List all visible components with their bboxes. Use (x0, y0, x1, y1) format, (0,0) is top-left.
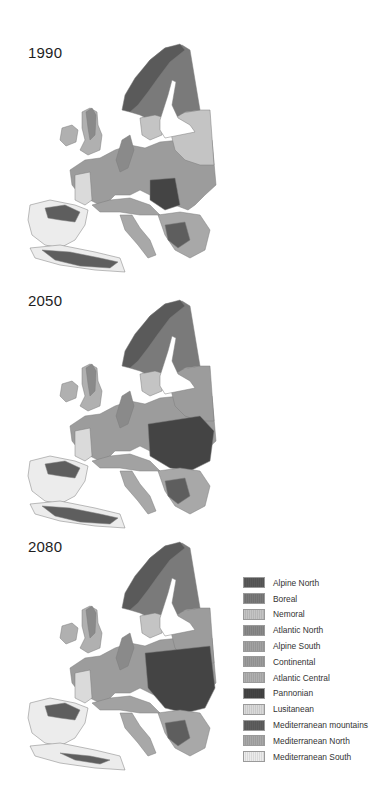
zone-pannonian (148, 416, 214, 471)
zone-ireland (60, 125, 78, 146)
legend-label: Atlantic Central (273, 673, 330, 683)
legend-swatch-mediterranean-north (243, 735, 265, 746)
europe-map-2080 (0, 528, 230, 794)
legend-swatch-atlantic-north (243, 625, 265, 636)
map-panel-2080: 2080 (0, 528, 230, 794)
legend-swatch-nemoral (243, 609, 265, 620)
europe-map-2050 (0, 268, 230, 538)
zone-lusitanean-fr (75, 172, 92, 205)
legend-item: Mediterranean South (243, 749, 377, 765)
legend-swatch-mediterranean-south (243, 751, 265, 762)
zone-pannonian (150, 178, 180, 210)
map-panel-2050: 2050 (0, 268, 230, 538)
legend-item: Lusitanean (243, 701, 377, 717)
legend-swatch-pannonian (243, 688, 265, 699)
legend-label: Lusitanean (273, 704, 314, 714)
zone-ireland (60, 623, 78, 644)
legend-label: Continental (273, 657, 315, 667)
legend-item: Mediterranean North (243, 733, 377, 749)
legend-label: Alpine South (273, 641, 321, 651)
legend-label: Mediterranean mountains (273, 720, 368, 730)
legend-item: Boreal (243, 591, 377, 607)
legend-swatch-lusitanean (243, 704, 265, 715)
legend-item: Atlantic North (243, 622, 377, 638)
zone-italy (120, 713, 156, 756)
zone-italy (120, 215, 156, 258)
zone-lusitanean-fr (75, 428, 92, 461)
legend: Alpine North Boreal Nemoral Atlantic Nor… (243, 575, 377, 765)
legend-swatch-continental (243, 656, 265, 667)
zone-pannonian (145, 646, 215, 713)
legend-item: Pannonian (243, 686, 377, 702)
europe-map-1990 (0, 0, 230, 280)
legend-label: Pannonian (273, 688, 313, 698)
zone-lusitanean-fr (75, 670, 92, 703)
zone-ireland (60, 381, 78, 402)
legend-swatch-atlantic-central (243, 672, 265, 683)
legend-label: Atlantic North (273, 625, 323, 635)
legend-item: Nemoral (243, 607, 377, 623)
legend-swatch-mediterranean-mountains (243, 720, 265, 731)
legend-swatch-boreal (243, 593, 265, 604)
legend-item: Continental (243, 654, 377, 670)
legend-item: Atlantic Central (243, 670, 377, 686)
legend-label: Boreal (273, 594, 297, 604)
legend-swatch-alpine-north (243, 577, 265, 588)
legend-swatch-alpine-south (243, 641, 265, 652)
legend-item: Mediterranean mountains (243, 717, 377, 733)
zone-italy (120, 471, 156, 514)
legend-label: Mediterranean South (273, 752, 351, 762)
legend-item: Alpine South (243, 638, 377, 654)
map-panel-1990: 1990 (0, 0, 230, 280)
legend-item: Alpine North (243, 575, 377, 591)
legend-label: Nemoral (273, 609, 305, 619)
legend-label: Mediterranean North (273, 736, 350, 746)
legend-label: Alpine North (273, 578, 319, 588)
